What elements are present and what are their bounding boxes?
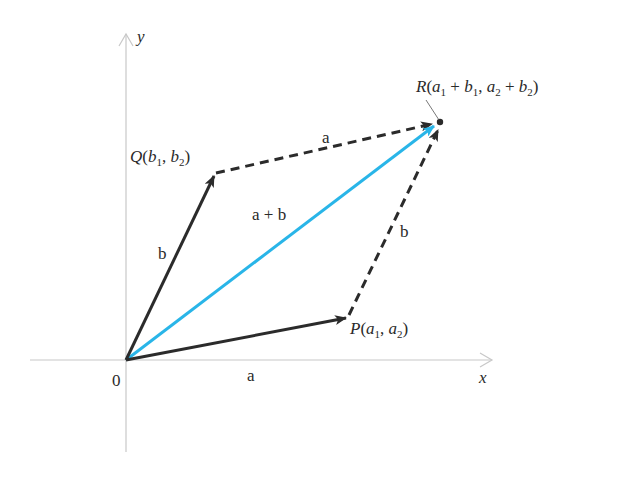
- vector-b: [126, 176, 214, 360]
- vector-b-shifted-label: b: [400, 222, 409, 241]
- x-axis-label: x: [478, 368, 487, 387]
- vector-a-label: a: [247, 366, 255, 385]
- vector-sum-label: a + b: [252, 205, 286, 224]
- vector-a-shifted-label: a: [322, 128, 330, 147]
- origin-label: 0: [112, 371, 121, 390]
- point-r-label: R(a1 + b1, a2 + b2): [415, 77, 538, 98]
- point-r-dot: [437, 119, 443, 125]
- point-p-label: P(a1, a2): [349, 319, 408, 340]
- point-q-label: Q(b1, b2): [130, 147, 190, 168]
- vector-addition-diagram: y x 0 a b a b a + b Q(b1, b2) P(a1, a2) …: [0, 0, 619, 483]
- y-axis-label: y: [135, 27, 145, 46]
- axes: [30, 34, 492, 452]
- vector-a: [126, 318, 346, 360]
- point-r-leader: [426, 100, 439, 120]
- vector-b-label: b: [158, 244, 167, 263]
